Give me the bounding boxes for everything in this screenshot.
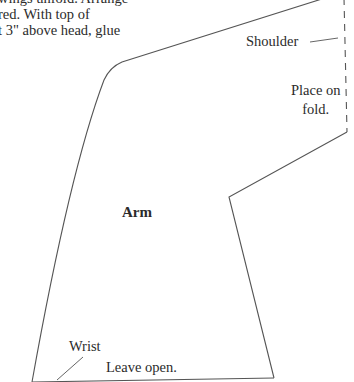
piece-name-label: Arm: [122, 204, 152, 220]
place-on-fold-line-2: fold.: [291, 100, 341, 119]
wrist-label: Wrist: [69, 338, 101, 354]
instruction-line-3: t 3" above head, glue: [0, 22, 120, 38]
pattern-piece-arm: wings unfold. Arrange red. With top of t…: [0, 0, 354, 382]
place-on-fold-line-1: Place on: [291, 81, 341, 100]
top-and-left-edge: [32, 0, 325, 382]
arm-pattern-outline: [0, 0, 354, 382]
fold-line: [344, 0, 347, 132]
shoulder-leader-line: [310, 38, 338, 42]
wrist-leader-line: [57, 357, 83, 380]
shoulder-label: Shoulder: [246, 33, 298, 49]
right-edge: [229, 132, 347, 378]
leave-open-label: Leave open.: [106, 359, 177, 375]
wrist-edge: [32, 378, 274, 382]
place-on-fold-label: Place on fold.: [291, 81, 341, 119]
instruction-line-2: red. With top of: [0, 6, 90, 22]
